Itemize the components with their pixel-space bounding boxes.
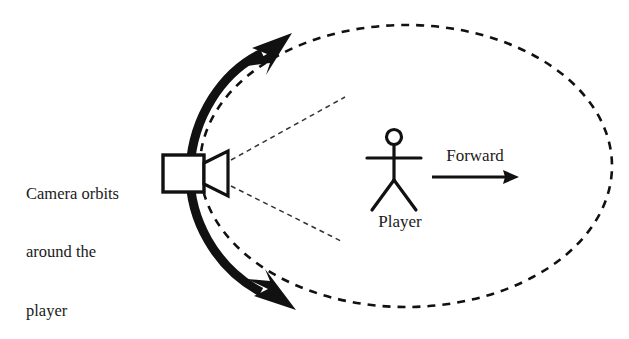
player-stick-figure (367, 130, 421, 211)
frustum-line-lower (231, 186, 341, 241)
player-leg-right (394, 180, 416, 210)
player-leg-left (372, 180, 394, 210)
dashed-orbit-ellipse (200, 25, 612, 307)
camera-orbit-caption: Camera orbits around the player (26, 145, 119, 339)
player-caption: Player (345, 212, 455, 232)
camera-orbit-caption-line2: around the (26, 242, 119, 261)
forward-caption: Forward (420, 146, 530, 166)
frustum-line-upper (231, 97, 345, 160)
camera-orbit-caption-line1: Camera orbits (26, 184, 119, 203)
camera-body (163, 155, 204, 192)
diagram-canvas: Camera orbits around the player Player F… (0, 0, 629, 339)
camera-icon (163, 151, 228, 196)
camera-view-frustum (231, 97, 345, 241)
forward-arrow-head (503, 170, 519, 184)
forward-arrow (432, 170, 519, 184)
player-head (387, 130, 402, 145)
orbit-ellipse-path (200, 25, 612, 307)
camera-orbit-caption-line3: player (26, 301, 119, 320)
camera-lens-cone (204, 151, 228, 196)
